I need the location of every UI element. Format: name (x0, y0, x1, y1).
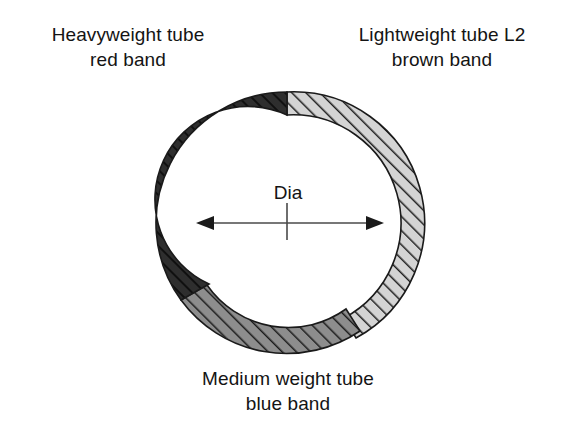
ring-graphic (0, 0, 572, 432)
diameter-dimension (196, 203, 384, 240)
diameter-label: Dia (238, 182, 338, 204)
segment-medium-weight-tube (181, 285, 360, 353)
segment-lightweight-tube (287, 92, 425, 338)
tube-cross-section-diagram: Heavyweight tube red band Lightweight tu… (0, 0, 572, 432)
arrowhead-right-icon (366, 216, 384, 230)
arrowhead-left-icon (196, 216, 214, 230)
